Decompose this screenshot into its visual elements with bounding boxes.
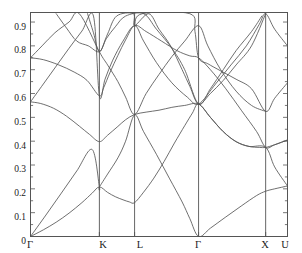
band-structure-plot <box>0 0 302 253</box>
branch-1-acoustic-lower <box>31 104 288 237</box>
plot-frame <box>31 13 288 237</box>
high-symmetry-lines <box>31 13 288 237</box>
xtick-label-gamma-1: Γ <box>20 240 40 251</box>
ytick-label-0.8: 0.8 <box>0 46 26 56</box>
branch-4 <box>31 13 288 105</box>
xtick-label-x: X <box>255 240 275 251</box>
xtick-label-k: K <box>93 240 113 251</box>
ytick-label-0.1: 0.1 <box>0 213 26 223</box>
y-tick-marks <box>31 22 288 236</box>
ytick-label-0.5: 0.5 <box>0 118 26 128</box>
branch-2-acoustic-upper <box>31 115 288 237</box>
band-curves <box>31 12 288 237</box>
ytick-label-0.3: 0.3 <box>0 165 26 175</box>
xtick-label-l: L <box>130 240 150 251</box>
xtick-label-gamma-2: Γ <box>188 240 208 251</box>
branch-8 <box>88 13 266 104</box>
ytick-label-0.4: 0.4 <box>0 142 26 152</box>
ytick-label-0.7: 0.7 <box>0 70 26 80</box>
ytick-label-0.9: 0.9 <box>0 23 26 33</box>
xtick-label-u: U <box>275 240 295 251</box>
ytick-label-0.2: 0.2 <box>0 189 26 199</box>
branch-3 <box>31 102 288 186</box>
band-structure-figure: 0.9 0.8 0.7 0.6 0.5 0.4 0.3 0.2 0.1 0 Γ … <box>0 0 302 253</box>
ytick-label-0.6: 0.6 <box>0 94 26 104</box>
